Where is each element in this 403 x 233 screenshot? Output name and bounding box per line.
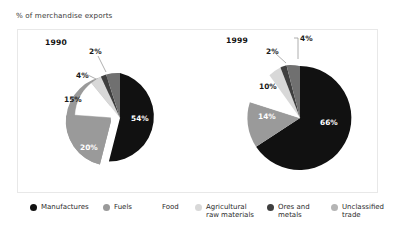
legend-item-manufactures[interactable]: Manufactures — [30, 203, 89, 211]
legend-swatch-manufactures-icon — [30, 204, 37, 211]
legend-label-fuels: Fuels — [114, 203, 132, 211]
leader-line-unclassified-1999 — [294, 38, 298, 59]
leader-lines-1990 — [70, 44, 130, 94]
legend-label-agricultural-raw-materials: Agricultural raw materials — [206, 203, 258, 220]
legend-item-food[interactable]: Food — [151, 203, 179, 211]
legend-item-agricultural-raw-materials[interactable]: Agricultural raw materials — [195, 203, 258, 220]
chart-legend: Manufactures Fuels Food Agricultural raw… — [17, 200, 397, 230]
slice-label-manufactures-1990: 54% — [131, 114, 149, 123]
leader-line-ores-1990 — [98, 56, 106, 72]
legend-swatch-ores-icon — [267, 204, 274, 211]
chart-axis-title: % of merchandise exports — [16, 11, 112, 20]
slice-label-manufactures-1999: 66% — [320, 118, 338, 127]
legend-item-unclassified-trade[interactable]: Unclassified trade — [331, 203, 390, 220]
slice-label-fuels-1999: 14% — [258, 112, 276, 121]
slice-label-food-1999: 10% — [259, 82, 277, 91]
legend-swatch-fuels-icon — [103, 204, 110, 211]
legend-item-ores-and-metals[interactable]: Ores and metals — [267, 203, 320, 220]
chart-figure: % of merchandise exports 1990 54% 20% 15… — [0, 0, 403, 233]
legend-label-unclassified-trade: Unclassified trade — [342, 203, 390, 220]
slice-label-fuels-1990: 20% — [80, 143, 98, 152]
legend-item-fuels[interactable]: Fuels — [103, 203, 132, 211]
leader-lines-1999 — [270, 33, 310, 73]
legend-swatch-unclassified-icon — [331, 204, 338, 211]
panel-year-label-1999: 1999 — [226, 36, 248, 45]
leader-line-ores-1999 — [275, 53, 286, 63]
leader-line-agricultural-1990 — [84, 73, 96, 79]
legend-label-food: Food — [162, 203, 179, 211]
legend-swatch-agricultural-icon — [195, 204, 202, 211]
legend-label-ores-and-metals: Ores and metals — [278, 203, 320, 220]
legend-label-manufactures: Manufactures — [41, 203, 89, 211]
slice-fuels-1990-shape — [66, 115, 111, 164]
legend-swatch-food-icon — [151, 204, 158, 211]
slice-label-food-1990: 15% — [64, 95, 82, 104]
panel-year-label-1990: 1990 — [45, 38, 67, 47]
